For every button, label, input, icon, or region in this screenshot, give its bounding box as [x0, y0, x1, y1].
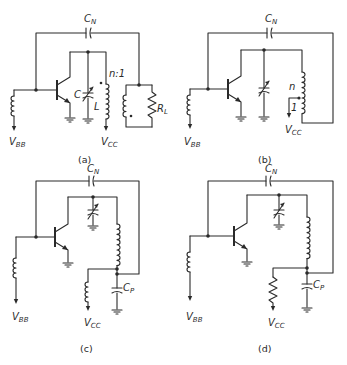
npn-transistor [57, 52, 75, 122]
load-resistor [148, 85, 156, 127]
npn-transistor [228, 50, 246, 121]
base-choke-inductor [187, 236, 192, 301]
panel-b: CN VBB [184, 13, 333, 165]
panel-d: CN VBB [186, 163, 333, 354]
base-choke-inductor [13, 237, 18, 304]
bypass-capacitor [302, 284, 312, 312]
output-transformer-secondary [123, 83, 152, 127]
npn-transistor [234, 195, 252, 266]
vbb-label: VBB [9, 136, 26, 149]
vbb-label: VBB [186, 311, 203, 324]
panel-a: CN VBB [9, 13, 168, 165]
collector-feed-resistor [269, 277, 277, 311]
tank-variable-capacitor [274, 195, 284, 229]
neutralizing-capacitor [266, 176, 271, 186]
cn-label: CN [87, 163, 100, 176]
c-label: C [74, 89, 81, 100]
neutralized-amplifier-circuits-figure: CN VBB [0, 0, 347, 365]
tank-inductor [100, 82, 109, 131]
cn-label: CN [265, 163, 278, 176]
cn-label: CN [265, 13, 278, 26]
tank-variable-capacitor [259, 50, 269, 121]
panel-caption: (c) [80, 343, 93, 354]
cp-label: CP [123, 282, 135, 295]
turns-ratio-label: n:1 [109, 68, 125, 79]
tank-inductor [115, 224, 120, 288]
bypass-capacitor [112, 288, 122, 314]
tap-1-label: 1 [291, 102, 297, 113]
tank-variable-capacitor [83, 52, 93, 123]
base-choke-inductor [11, 90, 16, 131]
cp-label: CP [313, 279, 325, 292]
vbb-label: VBB [184, 136, 201, 149]
vcc-label: VCC [285, 124, 302, 137]
panel-caption: (d) [258, 343, 271, 354]
cn-label: CN [84, 13, 97, 26]
neutralizing-capacitor [89, 176, 94, 186]
tank-variable-capacitor [88, 197, 98, 230]
neutralizing-capacitor [267, 28, 272, 38]
rl-label: RL [157, 103, 168, 116]
collector-choke-inductor [85, 282, 90, 311]
l-label: L [94, 101, 100, 112]
neutralizing-capacitor [86, 28, 91, 38]
tank-inductor [305, 217, 310, 284]
panel-c: CN VBB [12, 163, 139, 354]
vcc-label: VCC [101, 136, 118, 149]
base-node [34, 88, 38, 92]
npn-transistor [55, 197, 73, 267]
base-choke-inductor [187, 89, 192, 129]
vbb-label: VBB [12, 311, 29, 324]
tap-n-label: n [289, 81, 295, 92]
vcc-label: VCC [84, 317, 101, 330]
vcc-label: VCC [268, 317, 285, 330]
